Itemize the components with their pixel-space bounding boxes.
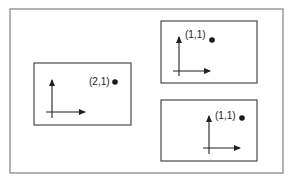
coordinate-frames-diagram: (2,1) (1,1) (1,1) bbox=[0, 0, 291, 181]
point-dot bbox=[209, 37, 215, 43]
point-label: (1,1) bbox=[185, 29, 206, 40]
panel-left: (2,1) bbox=[34, 63, 131, 125]
panel-border bbox=[34, 63, 131, 125]
point-label: (1,1) bbox=[215, 110, 236, 121]
point-dot bbox=[239, 115, 245, 121]
point-dot bbox=[112, 79, 118, 85]
panel-bottom-right: (1,1) bbox=[161, 100, 257, 161]
panel-border bbox=[161, 21, 257, 83]
panel-top-right: (1,1) bbox=[161, 21, 257, 83]
point-label: (2,1) bbox=[89, 76, 110, 87]
